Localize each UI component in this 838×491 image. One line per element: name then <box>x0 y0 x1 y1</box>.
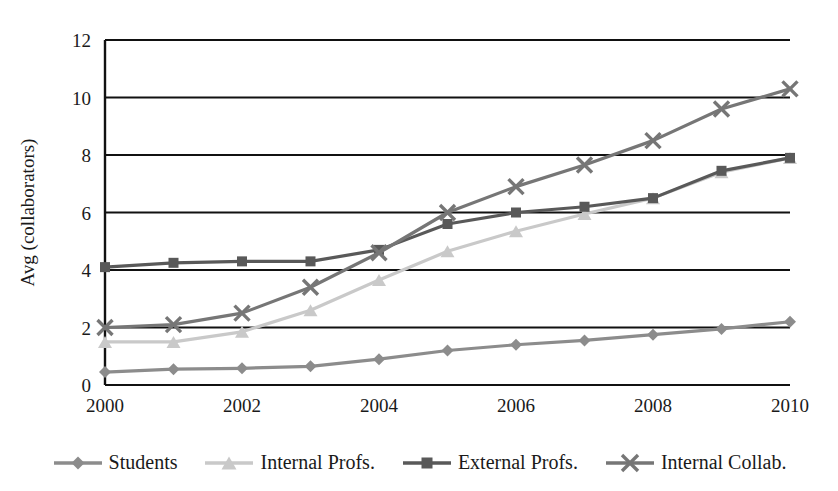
y-tick-label: 10 <box>72 88 91 109</box>
data-point-diamond <box>647 329 659 341</box>
data-point-diamond <box>71 456 84 469</box>
series-internal-collab <box>98 81 798 335</box>
chart-legend: StudentsInternal Profs.External Profs.In… <box>0 440 838 485</box>
legend-item-label: Internal Collab. <box>661 451 787 474</box>
data-point-square <box>169 258 179 268</box>
data-point-cross-x <box>646 133 661 148</box>
data-point-diamond <box>442 345 454 357</box>
legend-item-label: External Profs. <box>458 451 578 474</box>
data-point-square <box>421 457 432 468</box>
data-point-diamond <box>168 363 180 375</box>
series-students <box>99 316 796 378</box>
x-tick-label: 2008 <box>634 395 672 416</box>
legend-item-students[interactable]: Students <box>52 451 178 474</box>
data-point-square <box>443 219 453 229</box>
data-point-diamond <box>784 316 796 328</box>
data-point-triangle <box>372 274 386 286</box>
data-point-square <box>511 208 521 218</box>
data-point-square <box>237 256 247 266</box>
data-point-square <box>306 256 316 266</box>
y-tick-label: 6 <box>82 203 92 224</box>
data-point-cross-x <box>303 280 318 295</box>
legend-marker-diamond-icon <box>52 452 104 474</box>
legend-marker-cross-x-icon <box>604 452 656 474</box>
y-tick-label: 2 <box>82 318 92 339</box>
line-chart-figure: 024681012200020022004200620082010Avg (co… <box>0 0 838 491</box>
legend-item-internal-collab[interactable]: Internal Collab. <box>604 451 787 474</box>
data-point-square <box>648 193 658 203</box>
x-tick-label: 2010 <box>771 395 809 416</box>
y-tick-label: 4 <box>82 260 92 281</box>
data-point-square <box>785 153 795 163</box>
x-tick-label: 2000 <box>86 395 124 416</box>
x-tick-label: 2004 <box>360 395 399 416</box>
legend-item-label: Students <box>109 451 178 474</box>
data-point-diamond <box>510 339 522 351</box>
y-tick-label: 8 <box>82 145 92 166</box>
data-point-diamond <box>579 334 591 346</box>
x-tick-label: 2002 <box>223 395 261 416</box>
y-tick-label: 12 <box>72 30 91 51</box>
series-line <box>105 89 790 328</box>
data-point-square <box>717 166 727 176</box>
x-tick-label: 2006 <box>497 395 535 416</box>
legend-item-internal-profs[interactable]: Internal Profs. <box>203 451 374 474</box>
data-point-diamond <box>305 360 317 372</box>
y-tick-label: 0 <box>82 375 92 396</box>
legend-marker-square-icon <box>401 452 453 474</box>
y-axis-title: Avg (collaborators) <box>17 139 39 287</box>
data-point-diamond <box>716 323 728 335</box>
legend-item-label: Internal Profs. <box>260 451 374 474</box>
legend-marker-triangle-icon <box>203 452 255 474</box>
data-point-square <box>580 202 590 212</box>
chart-plot-area: 024681012200020022004200620082010Avg (co… <box>0 0 838 440</box>
data-point-diamond <box>236 362 248 374</box>
data-point-square <box>100 262 110 272</box>
data-point-diamond <box>99 366 111 378</box>
data-point-diamond <box>373 353 385 365</box>
legend-item-external-profs[interactable]: External Profs. <box>401 451 578 474</box>
